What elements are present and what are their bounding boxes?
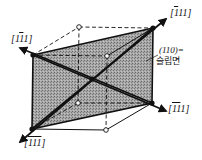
label-direction-left: [111] <box>11 34 32 44</box>
plane-miller-label: (110)= <box>159 46 184 55</box>
label-direction-right: [111] <box>168 104 189 114</box>
label-direction-top-right: [111] <box>170 8 191 18</box>
plane-caption: 슬립면 <box>156 57 180 66</box>
crystal-diagram <box>0 0 202 160</box>
label-direction-bottom-left: [111] <box>24 138 45 148</box>
